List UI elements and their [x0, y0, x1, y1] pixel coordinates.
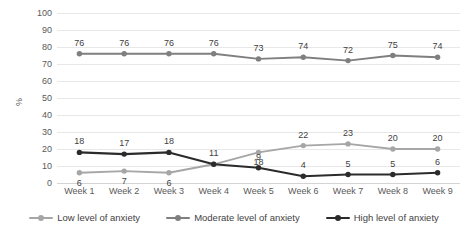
- y-tick-60: 60: [22, 77, 52, 86]
- x-tick-week-8: Week 8: [378, 186, 408, 197]
- data-point: [121, 151, 126, 156]
- data-point: [77, 170, 82, 175]
- value-label: 5: [346, 159, 351, 168]
- x-axis-tick-labels: Week 1Week 2Week 3Week 4Week 5Week 6Week…: [57, 186, 460, 200]
- x-tick-week-3: Week 3: [154, 186, 184, 197]
- y-tick-70: 70: [22, 60, 52, 69]
- value-label: 76: [119, 38, 129, 47]
- data-point: [256, 56, 261, 61]
- x-tick-week-9: Week 9: [422, 186, 452, 197]
- y-tick-80: 80: [22, 43, 52, 52]
- data-point: [345, 172, 350, 177]
- data-point: [211, 51, 216, 56]
- value-label: 73: [253, 43, 263, 52]
- legend-label: Low level of anxiety: [57, 213, 140, 223]
- data-point: [435, 55, 440, 60]
- data-point: [166, 150, 171, 155]
- legend-item-high-level-of-anxiety[interactable]: High level of anxiety: [326, 213, 439, 223]
- data-point: [390, 146, 395, 151]
- y-tick-30: 30: [22, 128, 52, 137]
- value-label: 20: [388, 134, 398, 143]
- legend-item-low-level-of-anxiety[interactable]: Low level of anxiety: [29, 213, 140, 223]
- y-tick-10: 10: [22, 162, 52, 171]
- legend-marker-icon: [166, 214, 190, 223]
- legend-marker-icon: [29, 214, 53, 223]
- value-label: 18: [164, 137, 174, 146]
- x-tick-week-6: Week 6: [288, 186, 318, 197]
- y-axis-tick-labels: 0102030405060708090100: [22, 13, 52, 183]
- value-label: 5: [390, 159, 395, 168]
- legend-label: Moderate level of anxiety: [194, 213, 300, 223]
- x-tick-week-2: Week 2: [109, 186, 139, 197]
- gridline-0: [57, 183, 460, 184]
- value-label: 75: [388, 40, 398, 49]
- value-label: 74: [298, 42, 308, 51]
- value-label: 4: [301, 161, 306, 170]
- value-label: 20: [433, 134, 443, 143]
- data-point: [77, 150, 82, 155]
- data-point: [435, 146, 440, 151]
- value-label: 7: [122, 177, 127, 186]
- y-tick-40: 40: [22, 111, 52, 120]
- legend-label: High level of anxiety: [354, 213, 439, 223]
- x-tick-week-5: Week 5: [243, 186, 273, 197]
- value-label: 74: [433, 42, 443, 51]
- data-point: [435, 170, 440, 175]
- value-label: 76: [164, 38, 174, 47]
- value-label: 72: [343, 45, 353, 54]
- value-label: 17: [119, 139, 129, 148]
- value-label: 11: [209, 149, 218, 158]
- y-tick-20: 20: [22, 145, 52, 154]
- data-point: [121, 168, 126, 173]
- x-tick-week-4: Week 4: [199, 186, 229, 197]
- data-point: [166, 170, 171, 175]
- x-tick-week-1: Week 1: [64, 186, 94, 197]
- value-label: 76: [74, 38, 84, 47]
- legend-marker-icon: [326, 214, 350, 223]
- plot-area: 6761118222320207676767673747275741817181…: [57, 13, 460, 183]
- y-tick-100: 100: [22, 9, 52, 18]
- data-point: [345, 141, 350, 146]
- data-point: [211, 162, 216, 167]
- value-label: 22: [298, 130, 308, 139]
- chart-legend: Low level of anxietyModerate level of an…: [0, 208, 468, 228]
- data-point: [345, 58, 350, 63]
- data-point: [121, 51, 126, 56]
- value-label: 18: [74, 137, 84, 146]
- data-point: [390, 53, 395, 58]
- x-tick-week-7: Week 7: [333, 186, 363, 197]
- value-label: 76: [209, 38, 219, 47]
- value-label: 9: [256, 152, 261, 161]
- data-point: [77, 51, 82, 56]
- data-point: [301, 55, 306, 60]
- data-point: [390, 172, 395, 177]
- line-chart: % 0102030405060708090100 676111822232020…: [0, 0, 468, 237]
- value-label: 6: [435, 157, 440, 166]
- data-point: [301, 143, 306, 148]
- data-point: [166, 51, 171, 56]
- y-tick-50: 50: [22, 94, 52, 103]
- y-tick-0: 0: [22, 179, 52, 188]
- legend-item-moderate-level-of-anxiety[interactable]: Moderate level of anxiety: [166, 213, 300, 223]
- value-label: 23: [343, 128, 353, 137]
- y-tick-90: 90: [22, 26, 52, 35]
- data-point: [301, 174, 306, 179]
